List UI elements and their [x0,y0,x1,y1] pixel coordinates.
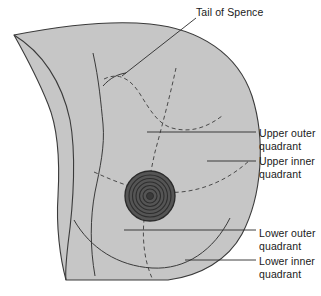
label-lower-inner-quadrant: Lower inner quadrant [259,255,315,280]
breast-quadrant-diagram: Tail of Spence Upper outer quadrant Uppe… [0,0,321,296]
label-tail-of-spence: Tail of Spence [196,6,263,19]
label-upper-outer-quadrant: Upper outer quadrant [259,127,316,152]
breast-outline-shape [14,23,260,280]
label-lower-outer-quadrant: Lower outer quadrant [259,227,316,252]
label-upper-inner-quadrant: Upper inner quadrant [259,155,315,180]
nipple-areola-complex [125,171,175,221]
